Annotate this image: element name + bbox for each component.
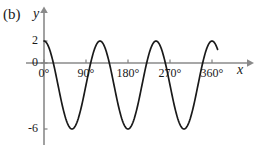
x-axis-arrowhead [247,59,254,67]
x-tick-label: 270° [146,66,194,81]
figure-panel: (b) y x 0°90°180°270°360°20-6 [0,0,261,149]
x-tick-label: 180° [104,66,152,81]
x-tick-label: 360° [188,66,236,81]
y-tick-label: 0 [0,55,38,70]
y-tick-label: 2 [0,33,38,48]
cosine-curve [44,41,218,129]
x-tick-label: 90° [62,66,110,81]
y-tick-label: -6 [0,121,38,136]
y-axis-arrowhead [40,7,48,14]
